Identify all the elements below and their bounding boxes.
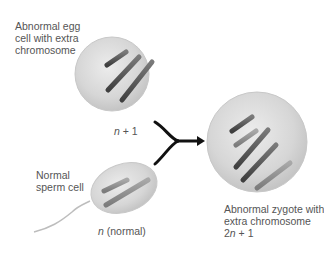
diagram-canvas: Abnormal egg cell with extra chromosome … [0,0,324,253]
egg-label-line1: Abnormal egg [15,20,80,32]
fertilization-arrow [155,122,205,164]
egg-ploidy-rest: + 1 [120,125,138,137]
sperm-label-line1: Normal [36,169,70,181]
egg-cell [75,37,152,111]
zygote-cell [207,92,307,192]
zygote-ploidy-rest: + 1 [236,227,254,239]
egg-label-line2: cell with extra [15,32,79,44]
zygote-label-line1: Abnormal zygote with [224,203,324,215]
sperm-ploidy-rest: (normal) [104,225,146,237]
sperm-label-line2: sperm cell [36,181,84,193]
zygote-ploidy: 2n + 1 [224,227,254,239]
sperm-ploidy: n (normal) [98,225,146,237]
egg-label-line3: chromosome [15,44,76,56]
egg-ploidy: n + 1 [114,125,138,137]
zygote-label-line2: extra chromosome [224,215,311,227]
